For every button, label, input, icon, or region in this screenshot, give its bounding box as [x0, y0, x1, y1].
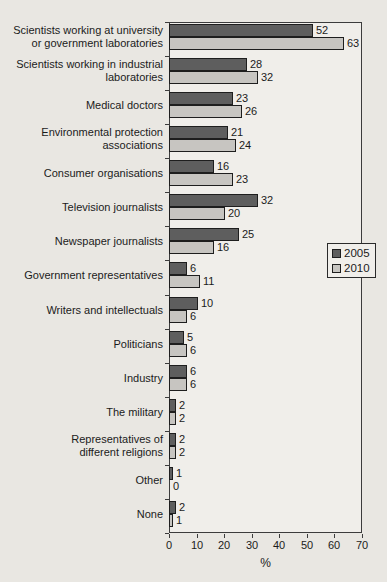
bar-2005: [169, 126, 228, 139]
bar-value-2010: 26: [245, 105, 257, 118]
y-axis-tick: [165, 499, 169, 500]
x-tick-label: 60: [328, 539, 340, 551]
x-tick-label: 40: [273, 539, 285, 551]
category-label: None: [137, 507, 163, 520]
category-label: Newspaper journalists: [55, 235, 163, 248]
bar-value-2005: 16: [217, 160, 229, 173]
y-axis-tick: [165, 56, 169, 57]
bar-value-2010: 20: [228, 207, 240, 220]
y-axis-tick: [165, 397, 169, 398]
category-label: Medical doctors: [86, 99, 163, 112]
x-tick-label: 0: [166, 539, 172, 551]
bar-value-2005: 2: [179, 399, 185, 412]
category-label: Scientists working in industrial laborat…: [16, 58, 163, 84]
x-axis-tick: [169, 534, 170, 538]
bar-2005: [169, 399, 176, 412]
bar-2010: [169, 241, 214, 254]
bar-value-2010: 32: [261, 71, 273, 84]
y-axis-tick: [165, 431, 169, 432]
bar-2010: [169, 37, 344, 50]
bar-2005: [169, 24, 313, 37]
y-axis-tick: [165, 363, 169, 364]
x-tick-label: 70: [356, 539, 368, 551]
y-axis-tick: [165, 226, 169, 227]
bar-2010: [169, 275, 200, 288]
bar-2005: [169, 297, 198, 310]
category-label: Consumer organisations: [44, 167, 163, 180]
bar-2010: [169, 105, 242, 118]
bar-2010: [169, 412, 176, 425]
x-axis-tick: [197, 534, 198, 538]
bar-2005: [169, 433, 176, 446]
y-axis-tick: [165, 295, 169, 296]
y-axis-tick: [165, 158, 169, 159]
bar-2010: [169, 207, 225, 220]
bar-2010: [169, 446, 176, 459]
bar-value-2005: 1: [176, 467, 182, 480]
bar-value-2010: 1: [176, 514, 182, 527]
legend-swatch-2010: [332, 264, 341, 273]
x-axis-tick: [224, 534, 225, 538]
bar-2010: [169, 378, 187, 391]
bar-value-2005: 52: [316, 24, 328, 37]
bar-2010: [169, 344, 187, 357]
x-axis-tick: [252, 534, 253, 538]
x-tick-label: 30: [246, 539, 258, 551]
bar-value-2005: 21: [231, 126, 243, 139]
bar-value-2010: 2: [179, 412, 185, 425]
bar-2005: [169, 194, 258, 207]
x-axis-tick: [307, 534, 308, 538]
category-label: Politicians: [113, 337, 163, 350]
bar-2005: [169, 228, 239, 241]
bar-2005: [169, 365, 187, 378]
category-label: Representatives of different religions: [71, 433, 163, 459]
bar-value-2010: 2: [179, 446, 185, 459]
bar-2005: [169, 467, 173, 480]
legend: 2005 2010: [327, 243, 376, 278]
category-label: Television journalists: [62, 201, 163, 214]
category-label: Environmental protection associations: [41, 126, 163, 152]
bar-value-2010: 0: [173, 480, 179, 493]
category-label: Government representatives: [24, 269, 163, 282]
bar-2010: [169, 310, 187, 323]
bar-value-2005: 10: [201, 297, 213, 310]
bar-value-2005: 2: [179, 501, 185, 514]
x-axis-title: %: [169, 556, 362, 570]
bar-value-2010: 6: [190, 310, 196, 323]
legend-item-2005: 2005: [332, 247, 370, 259]
y-axis-tick: [165, 465, 169, 466]
legend-item-2010: 2010: [332, 262, 370, 274]
category-label: Industry: [124, 371, 163, 384]
y-axis-tick: [165, 22, 169, 23]
bar-value-2010: 63: [347, 37, 359, 50]
y-axis-tick: [165, 260, 169, 261]
bar-value-2010: 6: [190, 378, 196, 391]
x-axis-tick: [362, 534, 363, 538]
x-tick-label: 20: [218, 539, 230, 551]
category-label: The military: [106, 405, 163, 418]
bar-2010: [169, 139, 236, 152]
bar-2005: [169, 160, 214, 173]
bar-value-2005: 28: [250, 58, 262, 71]
bar-2010: [169, 173, 233, 186]
y-axis-tick: [165, 124, 169, 125]
y-axis-tick: [165, 90, 169, 91]
bar-value-2005: 6: [190, 262, 196, 275]
legend-label-2005: 2005: [344, 247, 370, 259]
bar-value-2005: 25: [242, 228, 254, 241]
x-axis-tick: [334, 534, 335, 538]
y-axis-tick: [165, 192, 169, 193]
legend-swatch-2005: [332, 249, 341, 258]
bar-value-2005: 6: [190, 365, 196, 378]
bar-chart: % 2005 2010 Scientists working at univer…: [0, 0, 387, 582]
bar-value-2010: 24: [239, 139, 251, 152]
y-axis-tick: [165, 329, 169, 330]
bar-2005: [169, 92, 233, 105]
bar-value-2010: 16: [217, 241, 229, 254]
category-label: Other: [135, 473, 163, 486]
bar-value-2005: 23: [236, 92, 248, 105]
legend-label-2010: 2010: [344, 262, 370, 274]
bar-value-2010: 6: [190, 344, 196, 357]
category-label: Writers and intellectuals: [46, 303, 163, 316]
bar-2010: [169, 514, 173, 527]
